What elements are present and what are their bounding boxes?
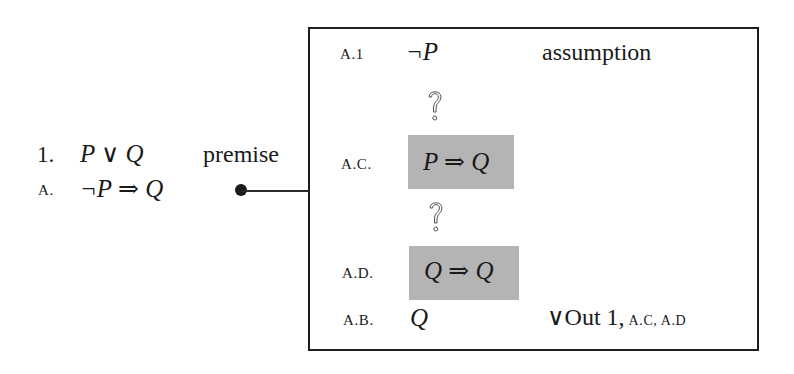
outer-line-a-formula: ¬P ⇒ Q: [80, 176, 163, 201]
subproof-line-ab-formula: Q: [410, 305, 428, 330]
subproof-line-ac-label: a.c.: [341, 156, 372, 173]
subproof-line-ad-formula: Q ⇒ Q: [424, 258, 494, 283]
outer-line-1-label: 1.: [37, 143, 54, 166]
subproof-line-a1-justification: assumption: [542, 40, 651, 64]
rule-references: a.c, a.d: [629, 313, 687, 328]
outer-line-1-justification: premise: [203, 142, 279, 166]
subproof-line-a1-formula: ¬P: [406, 39, 438, 64]
outer-line-a-label: a.: [38, 182, 54, 199]
subproof-box: [308, 27, 759, 351]
subproof-line-ad-label: a.d.: [342, 265, 374, 282]
rule-name: ∨Out 1,: [547, 304, 625, 330]
subproof-line-ac-formula: P ⇒ Q: [423, 149, 489, 174]
subproof-line-ab-justification: ∨Out 1, a.c, a.d: [547, 305, 686, 329]
question-mark-icon: [426, 87, 444, 123]
outer-line-1-formula: P ∨ Q: [80, 141, 144, 166]
connector-line: [241, 190, 310, 192]
subproof-line-ab-label: a.b.: [343, 312, 374, 329]
subproof-line-a1-label: a.1: [340, 46, 364, 63]
question-mark-icon: [427, 198, 445, 234]
